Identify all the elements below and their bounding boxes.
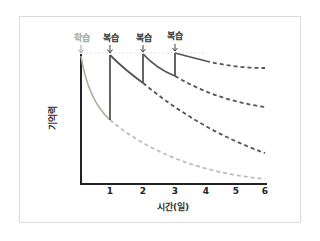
x-axis-label: 시간(일) xyxy=(157,200,189,213)
learning-curve-dashed xyxy=(110,120,265,179)
x-tick-6: 6 xyxy=(262,186,268,196)
learning-curve-solid xyxy=(81,56,110,120)
review2-curve-dashed xyxy=(175,76,265,107)
review3-arrow-icon xyxy=(173,44,178,51)
learn-annotation: 학습 xyxy=(74,31,90,44)
review3-curve-dashed xyxy=(206,61,265,68)
x-tick-1: 1 xyxy=(107,186,113,196)
x-tick-5: 5 xyxy=(233,186,239,196)
y-axis-label: 기억력 xyxy=(46,106,59,130)
review3-annotation: 복습 xyxy=(167,29,183,42)
x-tick-3: 3 xyxy=(172,186,178,196)
review1-curve-dashed xyxy=(143,83,265,153)
review1-arrow-icon xyxy=(108,45,113,53)
review1-annotation: 복습 xyxy=(103,31,119,44)
review3-curve-solid xyxy=(175,53,206,61)
review2-arrow-icon xyxy=(141,45,146,52)
learn-arrow-icon xyxy=(79,45,84,53)
review1-curve-solid xyxy=(110,55,143,83)
review2-annotation: 복습 xyxy=(136,31,152,44)
x-tick-2: 2 xyxy=(140,186,146,196)
review2-curve-solid xyxy=(143,54,175,76)
x-tick-4: 4 xyxy=(203,186,209,196)
